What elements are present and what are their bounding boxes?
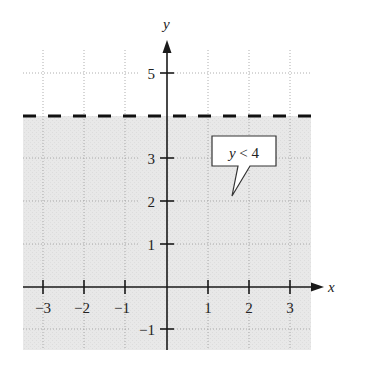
y-axis-label: y (161, 16, 170, 32)
x-tick-label: 3 (286, 300, 294, 316)
inequality-graph: y x −3 −2 −1 1 2 3 5 3 2 1 −1 y < 4 (0, 0, 365, 365)
callout-variable: y (227, 145, 236, 161)
svg-text:y < 4: y < 4 (227, 145, 260, 161)
x-tick-label: −3 (35, 300, 51, 316)
x-tick-label: 2 (245, 300, 253, 316)
y-tick-label: 2 (148, 194, 156, 210)
y-tick-label: 1 (148, 237, 156, 253)
x-tick-label: −1 (114, 300, 130, 316)
callout-relation: < 4 (236, 145, 260, 161)
x-tick-label: 1 (204, 300, 212, 316)
y-tick-label: −1 (139, 322, 155, 338)
y-axis-arrow-icon (163, 40, 172, 53)
y-tick-label: 3 (148, 151, 156, 167)
x-axis-arrow-icon (311, 283, 324, 292)
x-axis-label: x (327, 279, 335, 295)
y-tick-label: 5 (148, 66, 156, 82)
x-tick-label: −2 (74, 300, 90, 316)
